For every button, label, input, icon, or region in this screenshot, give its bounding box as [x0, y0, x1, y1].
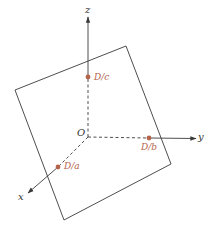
x-axis — [28, 167, 58, 193]
z-axis-label: z — [85, 5, 90, 15]
intercept-point-x — [56, 165, 61, 170]
intercept-point-y — [147, 136, 152, 141]
intercept-label-y: D/b — [141, 143, 157, 152]
intercept-point-z — [86, 75, 91, 80]
diagram-canvas — [0, 0, 213, 230]
y-axis-label: y — [198, 132, 204, 142]
intercept-label-z: D/c — [94, 73, 109, 82]
x-axis-label: x — [18, 192, 24, 202]
y-axis-hidden-segment — [88, 137, 149, 138]
coordinate-diagram: z y x O D/c D/b D/a — [0, 0, 213, 230]
y-axis — [149, 138, 196, 139]
intercept-label-x: D/a — [64, 162, 80, 171]
origin-label: O — [77, 128, 85, 138]
plane-square — [15, 46, 171, 220]
